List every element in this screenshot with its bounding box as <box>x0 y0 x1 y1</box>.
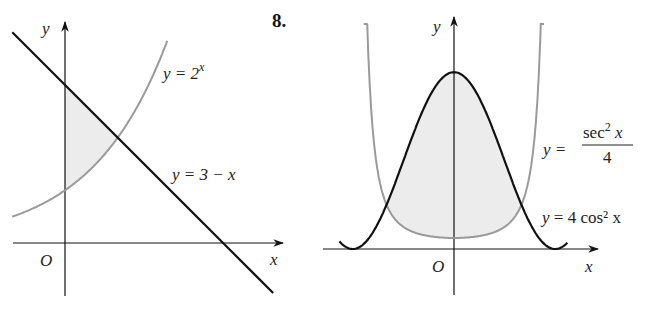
svg-text:y =: y = <box>541 140 566 159</box>
label-exponential: y = 2x <box>161 60 205 83</box>
x-axis-label: x <box>269 250 278 269</box>
label-line: y = 3 − x <box>170 165 236 184</box>
svg-text:4: 4 <box>603 148 612 167</box>
left-figure: y x O y = 2x y = 3 − x 8. <box>12 10 286 296</box>
label-cos-squared: y = 4 cos² x <box>540 208 621 227</box>
x-axis-label: x <box>584 257 593 276</box>
problem-number: 8. <box>272 10 286 31</box>
y-axis-label: y <box>40 19 50 38</box>
origin-label: O <box>432 257 444 276</box>
shaded-region <box>65 85 118 190</box>
figure-canvas: y x O y = 2x y = 3 − x 8. y x O y = sec2… <box>0 0 645 311</box>
origin-label: O <box>40 251 52 270</box>
right-figure: y x O y = sec2 x 4 y = 4 cos² x <box>323 17 633 295</box>
label-sec-squared: y = sec2 x 4 <box>541 120 633 167</box>
y-axis-label: y <box>431 17 441 36</box>
svg-text:sec2 x: sec2 x <box>583 120 623 142</box>
